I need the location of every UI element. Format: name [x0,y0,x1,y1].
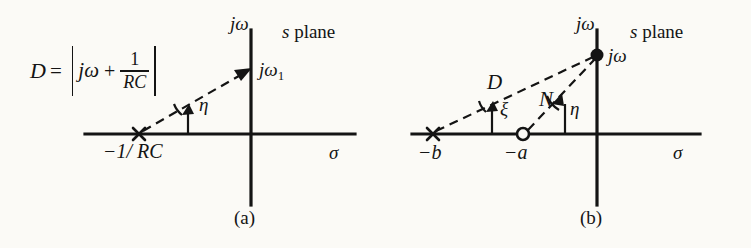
panel-b-angle-xi-label: ξ [500,99,508,118]
panel-b-zero-marker-icon [517,128,529,140]
panel-b-vector-D [436,57,593,131]
panel-a-real-axis-label: σ [329,143,338,162]
panel-a-pole-label: −1/ RC [103,141,163,161]
panel-a-caption: (a) [234,208,255,227]
equation-fraction-denominator: RC [120,72,149,92]
panel-b-zero-label: −a [504,142,528,162]
equation-first-term: jω [78,60,99,81]
panel-a-imaginary-axis-label: jω [230,14,249,33]
panel-a-vector-tip-symbol: jω [259,59,278,80]
panel-b-evaluation-point [591,49,604,62]
panel-a-vector-tip-label: jω1 [259,60,284,83]
s-plane-pole-zero-figure: D = jω + 1 RC jω s plane jω1 η −1/ RC σ … [0,0,751,248]
panel-a-equation: D = jω + 1 RC [30,46,161,96]
equation-magnitude-bar-left [72,46,74,96]
panel-b-axes [412,30,700,205]
equation-magnitude-bar-right [154,46,156,96]
panel-b-plane-label-word: plane [637,21,683,42]
equation-lhs: D [30,60,46,82]
equation-body: jω + 1 RC [78,50,149,92]
panel-b-imaginary-axis-label: jω [576,14,595,33]
panel-b-evaluation-point-label: jω [608,46,627,65]
panel-b-caption: (b) [580,208,602,227]
panel-a-plane-label-word: plane [289,21,335,42]
panel-b-plane-label: s plane [630,22,683,41]
panel-a-angle-eta-label: η [199,95,208,114]
panel-b-angle-eta-label: η [570,99,579,118]
panel-b-angle-xi-marker [479,101,498,134]
panel-b-pole-label: −b [418,142,442,162]
equation-operator: + [104,61,115,81]
panel-a-plane-label: s plane [282,22,335,41]
panel-b-vector-N-label: N [539,89,553,110]
panel-b-real-axis-label: σ [673,143,682,162]
equation-equals-sign: = [50,61,62,82]
equation-fraction: 1 RC [120,50,149,92]
panel-b-vector-D-label: D [487,72,502,93]
panel-a-vector-tip-subscript: 1 [278,68,284,83]
equation-fraction-numerator: 1 [126,50,143,70]
